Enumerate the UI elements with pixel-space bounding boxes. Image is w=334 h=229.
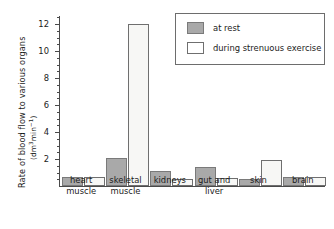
y-tick-minor	[57, 17, 60, 18]
white-swatch-icon	[187, 42, 204, 54]
y-axis-unit: (dm3min−1)	[28, 116, 38, 160]
x-axis-label-line: liver	[192, 186, 236, 197]
y-tick-minor	[57, 112, 60, 113]
x-axis-label-line: skin	[236, 175, 280, 186]
x-axis-label-line: heart	[59, 175, 103, 186]
legend-label-during-strenuous-exercise: during strenuous exercise	[213, 43, 321, 53]
y-tick-minor	[57, 85, 60, 86]
y-axis-title: Rate of blood flow to various organs (dm…	[0, 0, 46, 196]
legend-item-during-strenuous-exercise: during strenuous exercise	[187, 41, 321, 55]
x-axis-label-line: brain	[281, 175, 325, 186]
y-tick-minor	[57, 125, 60, 126]
y-tick-label: 4	[44, 128, 49, 136]
y-tick-major: 4	[55, 132, 59, 133]
x-axis-label: brain	[281, 175, 325, 186]
legend-item-at-rest: at rest	[187, 21, 240, 35]
y-tick-minor	[57, 146, 60, 147]
y-tick-minor	[57, 119, 60, 120]
y-tick-minor	[57, 98, 60, 99]
y-unit-exponent-minus1: −1	[28, 119, 34, 127]
y-tick-label: 2	[44, 155, 49, 163]
y-unit-exponent-3: 3	[28, 141, 34, 145]
y-tick-minor	[57, 166, 60, 167]
y-tick-label: 12	[38, 20, 49, 28]
gray-swatch-icon	[187, 22, 204, 34]
y-tick-major: 10	[55, 51, 59, 52]
y-tick-label: 10	[38, 47, 49, 55]
y-tick-major: 6	[55, 105, 59, 106]
y-tick-minor	[57, 92, 60, 93]
x-axis-label: kidneys	[148, 175, 192, 186]
x-axis-label-line: muscle	[59, 186, 103, 197]
y-tick-label: 6	[44, 101, 49, 109]
y-tick-minor	[57, 44, 60, 45]
bar	[128, 24, 149, 186]
y-unit-mid: min	[29, 127, 38, 141]
y-tick-minor	[57, 65, 60, 66]
x-axis-label-line: skeletal	[103, 175, 147, 186]
legend: at rest during strenuous exercise	[175, 13, 325, 65]
y-tick-minor	[57, 139, 60, 140]
y-tick-major: 8	[55, 78, 59, 79]
x-axis-label: skin	[236, 175, 280, 186]
x-axis-label-line: gut and	[192, 175, 236, 186]
y-tick-major: 12	[55, 24, 59, 25]
y-tick-label: 8	[44, 74, 49, 82]
bar-group	[106, 16, 149, 186]
y-tick-major: 2	[55, 159, 59, 160]
y-tick-minor	[57, 38, 60, 39]
y-axis-line	[59, 16, 60, 187]
bar-group	[62, 16, 105, 186]
legend-label-at-rest: at rest	[213, 23, 240, 33]
y-tick-minor	[57, 58, 60, 59]
y-tick-minor	[57, 173, 60, 174]
y-unit-prefix: (dm	[29, 145, 38, 160]
x-axis-label-line: muscle	[103, 186, 147, 197]
bar-chart: Rate of blood flow to various organs (dm…	[0, 0, 334, 229]
y-tick-minor	[57, 31, 60, 32]
x-axis-label-line: kidneys	[148, 175, 192, 186]
y-axis-title-text: Rate of blood flow to various organs	[17, 36, 27, 188]
x-axis-label: gut andliver	[192, 175, 236, 196]
x-axis-label: skeletalmuscle	[103, 175, 147, 196]
x-axis-label: heartmuscle	[59, 175, 103, 196]
y-tick-minor	[57, 71, 60, 72]
y-unit-suffix: )	[29, 116, 38, 119]
y-tick-minor	[57, 152, 60, 153]
